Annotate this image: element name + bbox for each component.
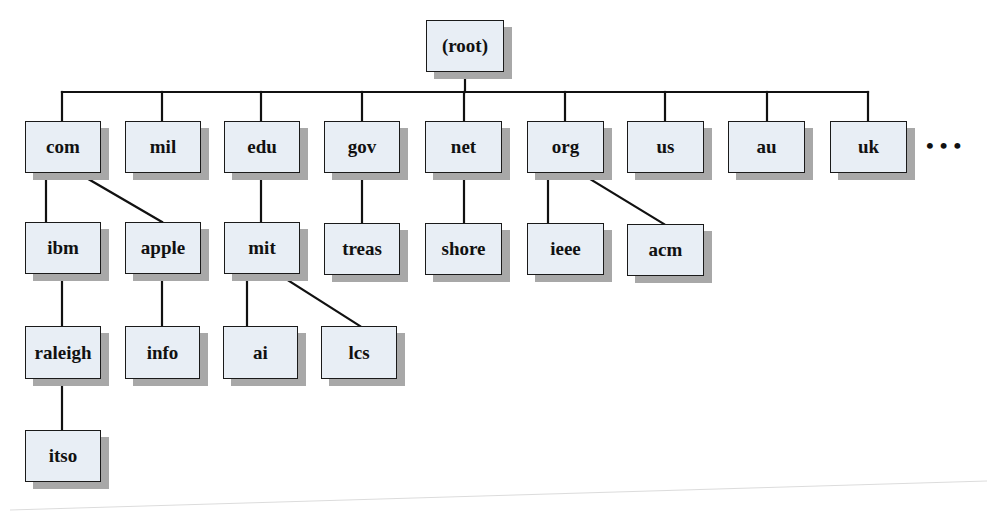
node-root: (root) xyxy=(426,20,504,72)
node-ibm: ibm xyxy=(25,222,101,274)
node-label: com xyxy=(46,136,80,158)
connector-line xyxy=(580,173,664,224)
node-label: us xyxy=(657,136,675,158)
node-label: info xyxy=(147,342,179,364)
node-label: au xyxy=(756,136,776,158)
dns-tree-diagram: (root) com mil edu gov net org us au uk … xyxy=(0,0,987,513)
connector-line xyxy=(278,274,360,326)
node-label: lcs xyxy=(348,342,369,364)
node-label: ai xyxy=(253,342,268,364)
node-acm: acm xyxy=(627,224,704,276)
node-net: net xyxy=(425,121,502,173)
more-domains-ellipsis: ••• xyxy=(926,133,967,159)
scan-edge-line xyxy=(10,481,987,510)
node-label: net xyxy=(451,136,476,158)
node-label: ibm xyxy=(47,237,79,259)
node-com: com xyxy=(25,121,101,173)
node-mil: mil xyxy=(125,121,201,173)
node-label: treas xyxy=(342,238,382,260)
node-label: mil xyxy=(150,136,176,158)
node-lcs: lcs xyxy=(321,326,397,379)
node-ai: ai xyxy=(223,326,298,379)
node-label: mit xyxy=(248,237,275,259)
node-edu: edu xyxy=(224,121,300,173)
node-info: info xyxy=(125,326,200,379)
node-mit: mit xyxy=(224,222,300,274)
connector-line xyxy=(78,173,162,222)
node-label: raleigh xyxy=(35,342,92,364)
node-label: gov xyxy=(348,136,377,158)
node-shore: shore xyxy=(425,223,502,275)
node-label: (root) xyxy=(442,35,488,57)
node-label: uk xyxy=(858,136,879,158)
node-raleigh: raleigh xyxy=(25,326,101,379)
node-gov: gov xyxy=(324,121,400,173)
node-ieee: ieee xyxy=(527,223,604,275)
node-itso: itso xyxy=(25,430,101,482)
node-label: ieee xyxy=(550,238,581,260)
node-label: apple xyxy=(141,237,185,259)
node-au: au xyxy=(728,121,805,173)
node-apple: apple xyxy=(125,222,201,274)
node-label: acm xyxy=(649,239,683,261)
node-label: shore xyxy=(442,238,486,260)
node-org: org xyxy=(527,121,604,173)
node-label: org xyxy=(552,136,579,158)
node-us: us xyxy=(627,121,704,173)
node-uk: uk xyxy=(830,121,907,173)
node-label: itso xyxy=(49,445,78,467)
node-label: edu xyxy=(247,136,277,158)
node-treas: treas xyxy=(324,223,400,275)
